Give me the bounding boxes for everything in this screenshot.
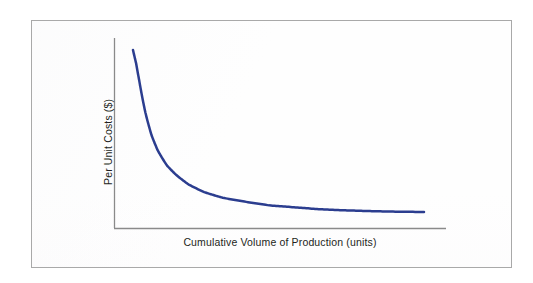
y-axis-title: Per Unit Costs ($) [102,99,114,185]
x-axis-title: Cumulative Volume of Production (units) [114,236,446,248]
cost-curve-line [133,50,424,212]
figure-container: Per Unit Costs ($) Cumulative Volume of … [0,0,533,283]
